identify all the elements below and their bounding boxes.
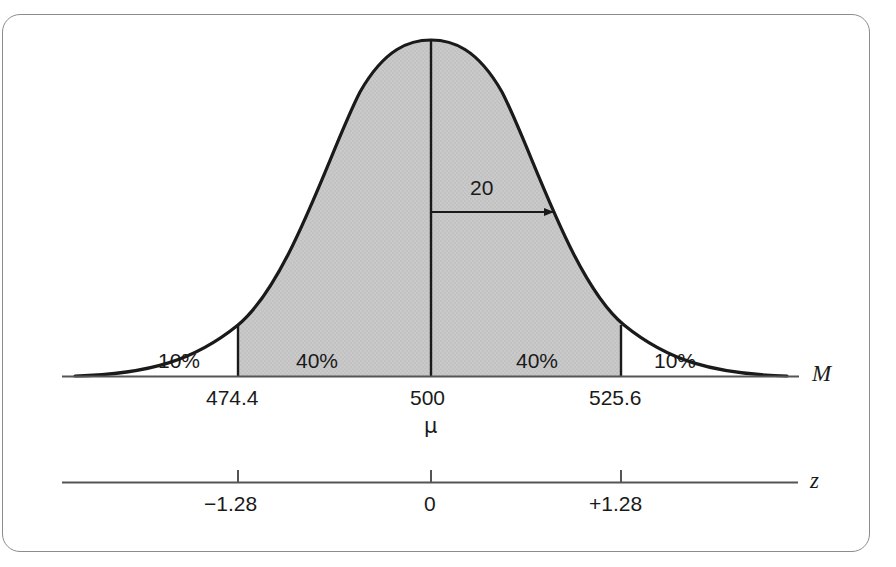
m-tick-label-500: 500 xyxy=(410,386,445,410)
region-label-left-tail: 10% xyxy=(158,349,200,373)
m-axis-label: M xyxy=(812,361,831,387)
statistics-figure: 10% 40% 40% 10% 20 474.4 500 525.6 μ M −… xyxy=(0,0,896,567)
region-label-left-40: 40% xyxy=(296,349,338,373)
standard-error-value: 20 xyxy=(470,176,493,200)
m-tick-label-474-4: 474.4 xyxy=(206,386,259,410)
region-label-right-tail: 10% xyxy=(654,349,696,373)
mu-symbol: μ xyxy=(424,414,437,438)
region-label-right-40: 40% xyxy=(516,349,558,373)
m-tick-label-525-6: 525.6 xyxy=(589,386,642,410)
z-tick-label-minus-1-28: −1.28 xyxy=(204,492,257,516)
z-tick-label-zero: 0 xyxy=(424,492,436,516)
z-tick-label-plus-1-28: +1.28 xyxy=(589,492,642,516)
z-axis-label: z xyxy=(810,468,819,494)
distribution-plot xyxy=(0,0,896,567)
